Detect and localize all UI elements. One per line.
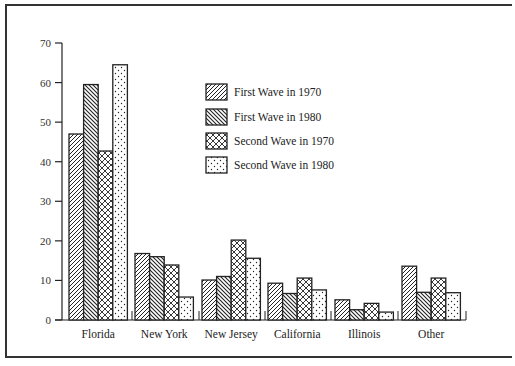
legend: First Wave in 1970First Wave in 1980Seco… <box>206 84 334 173</box>
legend-label: Second Wave in 1970 <box>234 135 334 147</box>
legend-swatch <box>206 133 227 149</box>
bar-chart: 010203040506070 FloridaNew YorkNew Jerse… <box>0 0 515 366</box>
bar-group-illinois <box>335 300 393 320</box>
bar <box>98 151 113 320</box>
legend-label: Second Wave in 1980 <box>234 159 334 171</box>
bar-group-florida <box>69 65 127 320</box>
bar <box>231 240 246 320</box>
legend-label: First Wave in 1980 <box>234 111 322 123</box>
bar <box>446 293 461 320</box>
bars <box>69 65 460 320</box>
y-tick-label: 40 <box>40 156 52 168</box>
bar <box>113 65 128 320</box>
bar <box>164 265 179 320</box>
bar <box>364 303 379 320</box>
bar <box>135 254 150 320</box>
y-tick-label: 0 <box>46 314 52 326</box>
y-tick-label: 60 <box>40 77 52 89</box>
bar <box>431 278 446 320</box>
bar <box>417 292 432 320</box>
bar <box>217 276 232 320</box>
y-tick-label: 50 <box>40 116 52 128</box>
bar <box>202 280 217 320</box>
bar <box>84 85 99 320</box>
bar <box>297 278 312 320</box>
x-category-label: Other <box>418 328 444 340</box>
legend-swatch <box>206 157 227 173</box>
bar-group-other <box>402 266 460 320</box>
y-tick-label: 30 <box>40 195 52 207</box>
bar-group-new-york <box>135 254 193 320</box>
legend-swatch <box>206 109 227 125</box>
y-tick-label: 20 <box>40 235 52 247</box>
bar-group-california <box>268 278 326 320</box>
legend-label: First Wave in 1970 <box>234 86 322 98</box>
x-category-label: New Jersey <box>205 328 259 341</box>
bar <box>283 293 298 320</box>
y-axis: 010203040506070 <box>40 37 62 326</box>
bar <box>179 297 194 320</box>
bar <box>69 134 84 320</box>
bar <box>312 290 327 320</box>
bar <box>335 300 350 320</box>
bar <box>350 310 365 320</box>
x-category-label: Florida <box>82 328 115 340</box>
bar <box>379 312 394 320</box>
x-category-label: Illinois <box>348 328 381 340</box>
bar <box>150 257 165 320</box>
bar <box>246 258 261 320</box>
legend-swatch <box>206 84 227 100</box>
y-tick-label: 70 <box>40 37 52 49</box>
bar <box>402 266 417 320</box>
x-category-label: New York <box>141 328 188 340</box>
x-category-label: California <box>274 328 321 340</box>
bar <box>268 283 283 320</box>
y-tick-label: 10 <box>40 274 52 286</box>
bar-group-new-jersey <box>202 240 260 320</box>
